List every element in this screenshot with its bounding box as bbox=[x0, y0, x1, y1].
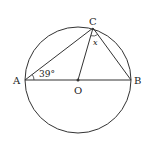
center-point-O bbox=[77, 79, 80, 82]
radius-OC bbox=[78, 28, 93, 80]
label-C: C bbox=[89, 16, 97, 27]
label-B: B bbox=[134, 75, 141, 86]
chord-CB bbox=[93, 28, 131, 80]
angle-arc-A bbox=[32, 75, 34, 81]
label-O: O bbox=[74, 85, 82, 96]
angle-label-A: 39° bbox=[39, 69, 55, 79]
chord-AC bbox=[25, 28, 93, 80]
angle-arc-C bbox=[91, 35, 98, 37]
angle-label-C: x bbox=[93, 38, 98, 47]
label-A: A bbox=[12, 75, 21, 86]
circle-diagram: A B C O 39° x bbox=[0, 0, 150, 146]
